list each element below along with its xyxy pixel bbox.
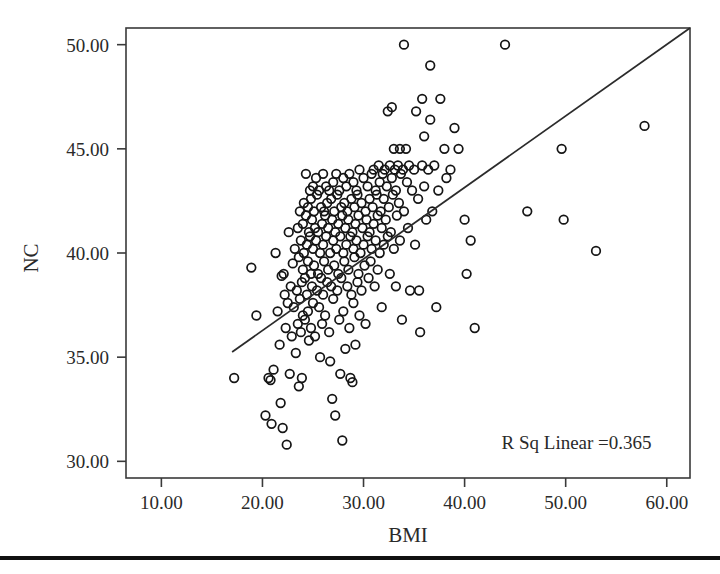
x-tick-label: 30.00 bbox=[342, 492, 385, 513]
x-tick-label: 40.00 bbox=[443, 492, 486, 513]
x-axis-title: BMI bbox=[388, 523, 428, 547]
r-squared-annotation: R Sq Linear =0.365 bbox=[502, 432, 652, 453]
x-tick-label: 20.00 bbox=[241, 492, 284, 513]
y-tick-label: 50.00 bbox=[66, 35, 109, 56]
y-tick-label: 40.00 bbox=[66, 243, 109, 264]
y-tick-label: 45.00 bbox=[66, 139, 109, 160]
y-axis-title: NC bbox=[19, 243, 43, 272]
scatter-plot-figure: 30.0035.0040.0045.0050.00 10.0020.0030.0… bbox=[0, 0, 720, 574]
x-tick-label: 60.00 bbox=[645, 492, 688, 513]
y-tick-label: 35.00 bbox=[66, 347, 109, 368]
x-tick-label: 50.00 bbox=[544, 492, 587, 513]
bottom-divider-rule bbox=[0, 556, 720, 560]
y-tick-label: 30.00 bbox=[66, 451, 109, 472]
chart-canvas: 30.0035.0040.0045.0050.00 10.0020.0030.0… bbox=[0, 0, 720, 574]
x-tick-label: 10.00 bbox=[140, 492, 183, 513]
